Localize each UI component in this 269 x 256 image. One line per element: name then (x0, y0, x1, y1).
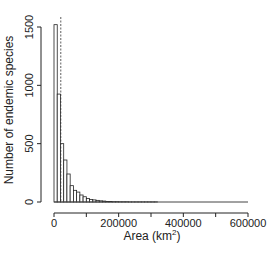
histogram-bar (80, 195, 83, 202)
x-tick-label: 400000 (165, 217, 202, 229)
y-tick-label: 0 (23, 199, 35, 205)
x-axis: 0200000400000600000 (51, 213, 266, 229)
y-axis-title: Number of endemic species (2, 36, 16, 185)
histogram-bar (70, 186, 73, 202)
histogram-bar (64, 160, 67, 202)
histogram-bar (67, 174, 70, 202)
histogram-bar (86, 199, 89, 203)
y-tick-label: 1500 (23, 15, 35, 39)
histogram-bars (54, 25, 248, 202)
y-axis: 050010001500 (23, 15, 41, 205)
y-tick-label: 500 (23, 134, 35, 152)
x-tick-label: 200000 (100, 217, 137, 229)
histogram-bar (83, 197, 86, 202)
histogram-bar (73, 190, 76, 202)
x-axis-title: Area (km2) (123, 228, 180, 243)
histogram-bar (57, 94, 60, 202)
histogram-bar (77, 192, 80, 202)
x-tick-label: 0 (51, 217, 57, 229)
x-tick-label: 600000 (230, 217, 267, 229)
histogram-bar (54, 25, 57, 202)
y-tick-label: 1000 (23, 73, 35, 97)
histogram-chart: 050010001500 0200000400000600000 Number … (0, 0, 269, 256)
